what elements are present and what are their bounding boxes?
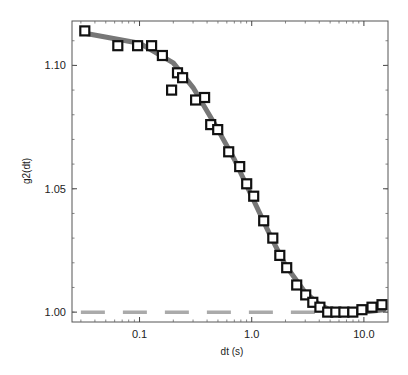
- data-point-marker: [268, 234, 277, 243]
- y-axis-label: g2(dt): [21, 158, 32, 184]
- data-point-marker: [80, 26, 89, 35]
- axes-frame: [72, 21, 388, 322]
- data-points: [80, 26, 386, 316]
- data-point-marker: [213, 125, 222, 134]
- y-tick-label: 1.05: [45, 183, 66, 195]
- data-point-marker: [242, 179, 251, 188]
- data-point-marker: [191, 96, 200, 105]
- data-point-marker: [282, 263, 291, 272]
- data-point-marker: [113, 41, 122, 50]
- data-point-marker: [224, 147, 233, 156]
- data-point-marker: [167, 86, 176, 95]
- data-point-marker: [259, 216, 268, 225]
- fit-curve: [85, 33, 384, 312]
- data-point-marker: [133, 41, 142, 50]
- data-point-marker: [368, 303, 377, 312]
- x-tick-label: 1.0: [244, 328, 259, 340]
- data-point-marker: [178, 73, 187, 82]
- data-point-marker: [339, 308, 348, 317]
- data-point-marker: [147, 41, 156, 50]
- data-point-marker: [235, 162, 244, 171]
- data-point-marker: [275, 251, 284, 260]
- data-point-marker: [292, 281, 301, 290]
- data-point-marker: [200, 93, 209, 102]
- data-point-marker: [348, 308, 357, 317]
- data-point-marker: [158, 51, 167, 60]
- axis-ticks: 1.001.051.100.11.010.0: [45, 21, 388, 340]
- x-axis-label: dt (s): [221, 346, 244, 357]
- g2-correlation-chart: 1.001.051.100.11.010.0 dt (s) g2(dt): [0, 0, 408, 375]
- y-tick-label: 1.00: [45, 306, 66, 318]
- x-tick-label: 10.0: [353, 328, 374, 340]
- data-point-marker: [378, 300, 387, 309]
- y-tick-label: 1.10: [45, 59, 66, 71]
- x-tick-label: 0.1: [132, 328, 147, 340]
- data-point-marker: [249, 192, 258, 201]
- data-point-marker: [357, 305, 366, 314]
